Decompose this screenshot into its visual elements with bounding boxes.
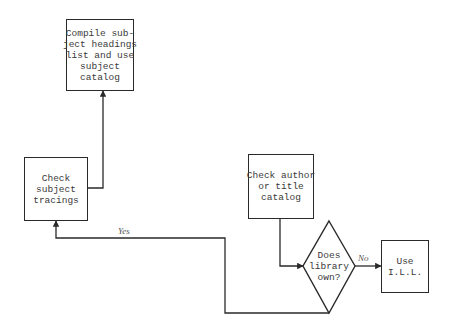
flowchart: Compile sub- ject headings list and use …	[0, 0, 450, 332]
node-text-line: own?	[303, 272, 355, 283]
node-text-line: list and use	[63, 50, 137, 61]
node-text-line: Does	[303, 250, 355, 261]
node-text-line: subject	[63, 61, 137, 72]
decision-text: Does library own?	[303, 250, 355, 283]
node-text-line: catalog	[247, 192, 315, 203]
node-text-line: library	[303, 261, 355, 272]
node-text-line: Compile sub-	[63, 28, 137, 39]
node-text-line: I.L.L.	[388, 267, 422, 278]
edge-decision-yes-to-tracings	[56, 221, 329, 313]
node-text-line: Check	[33, 173, 79, 184]
node-text-line: or title	[247, 181, 315, 192]
node-check-subject-tracings: Check subject tracings	[24, 157, 88, 221]
node-text-line: tracings	[33, 195, 79, 206]
node-text-line: Use	[388, 256, 422, 267]
node-compile-subject-headings: Compile sub- ject headings list and use …	[66, 19, 134, 91]
node-use-ill: Use I.L.L.	[381, 240, 429, 293]
edge-tracings-to-compile	[87, 91, 103, 188]
edge-label-no: No	[358, 253, 369, 263]
edge-author-to-decision	[280, 218, 303, 266]
node-text-line: subject	[33, 184, 79, 195]
node-check-author-title-catalog: Check author or title catalog	[248, 154, 314, 219]
node-text-line: catalog	[63, 72, 137, 83]
node-text-line: ject headings	[63, 39, 137, 50]
node-text-line: Check author	[247, 170, 315, 181]
edge-label-yes: Yes	[118, 226, 130, 236]
